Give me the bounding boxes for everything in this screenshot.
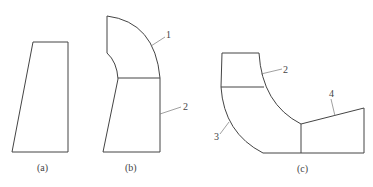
callout-c-4: 4 bbox=[329, 88, 334, 99]
diagram-canvas: (a) (b) (c) 1 2 2 3 4 bbox=[0, 0, 373, 187]
caption-c: (c) bbox=[297, 163, 308, 175]
diagram: (a) (b) (c) 1 2 2 3 4 bbox=[0, 0, 373, 187]
caption-b: (b) bbox=[125, 162, 137, 174]
caption-a: (a) bbox=[37, 162, 48, 174]
callout-b-1: 1 bbox=[166, 29, 171, 40]
callout-b-2: 2 bbox=[183, 101, 188, 112]
callout-c-2: 2 bbox=[283, 64, 288, 75]
callout-c-3: 3 bbox=[214, 131, 219, 142]
figure-c bbox=[220, 53, 364, 153]
figure-a bbox=[12, 42, 68, 152]
